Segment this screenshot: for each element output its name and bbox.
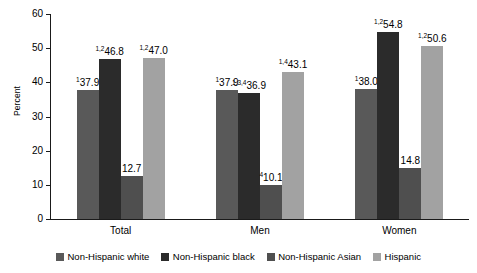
x-axis-line <box>50 219 469 220</box>
bar-value-label: 1,250.6 <box>409 33 455 44</box>
bar[interactable] <box>143 58 165 219</box>
bar[interactable] <box>399 168 421 219</box>
bar[interactable] <box>355 89 377 219</box>
bar[interactable] <box>121 176 143 219</box>
bar[interactable] <box>260 185 282 220</box>
y-tick-label: 20 <box>21 146 43 156</box>
y-tick-label: 30 <box>21 112 43 122</box>
legend-swatch-icon <box>56 253 64 261</box>
y-tick-label: 40 <box>21 77 43 87</box>
category-label: Women <box>330 225 469 236</box>
category-label: Men <box>190 225 329 236</box>
chart-legend: Non-Hispanic whiteNon-Hispanic blackNon-… <box>0 252 477 262</box>
legend-item[interactable]: Hispanic <box>373 252 421 262</box>
bar[interactable] <box>282 72 304 219</box>
bar[interactable] <box>377 32 399 219</box>
bar[interactable] <box>99 59 121 219</box>
bar[interactable] <box>238 93 260 219</box>
legend-swatch-icon <box>373 253 381 261</box>
legend-swatch-icon <box>161 253 169 261</box>
plot-area: 137.91,246.812.71,247.0137.91,3,436.9410… <box>51 14 469 219</box>
category-label: Total <box>51 225 190 236</box>
legend-label: Non-Hispanic white <box>67 252 149 262</box>
y-tick-label: 10 <box>21 180 43 190</box>
bar-value-label: 1,254.8 <box>365 19 411 30</box>
legend-swatch-icon <box>267 253 275 261</box>
legend-item[interactable]: Non-Hispanic black <box>161 252 254 262</box>
bar[interactable] <box>77 90 99 219</box>
bar-value-label: 1,3,436.9 <box>226 80 272 91</box>
bar[interactable] <box>216 90 238 219</box>
legend-item[interactable]: Non-Hispanic Asian <box>267 252 361 262</box>
bar-chart: Percent 6050403020100 137.91,246.812.71,… <box>0 0 477 273</box>
bar-value-label: 1,443.1 <box>270 59 316 70</box>
y-tick-label: 60 <box>21 9 43 19</box>
legend-label: Hispanic <box>385 252 421 262</box>
legend-item[interactable]: Non-Hispanic white <box>56 252 149 262</box>
bar[interactable] <box>421 46 443 219</box>
y-tick-label: 0 <box>21 214 43 224</box>
y-axis-title: Percent <box>12 56 22 146</box>
legend-label: Non-Hispanic black <box>173 252 255 262</box>
bar-value-label: 1,247.0 <box>131 45 177 56</box>
legend-label: Non-Hispanic Asian <box>278 252 361 262</box>
y-tick-label: 50 <box>21 43 43 53</box>
bar-value-label: 1,246.8 <box>87 46 133 57</box>
